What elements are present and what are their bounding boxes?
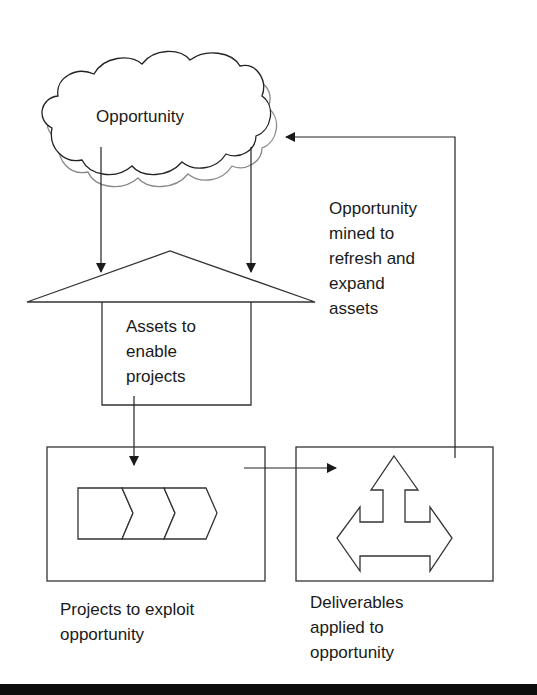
three-way-arrow-icon <box>337 456 452 571</box>
diagram-canvas <box>0 0 537 695</box>
assets-label: Assets to enable projects <box>126 314 196 389</box>
opportunity-label: Opportunity <box>96 104 184 129</box>
feedback-edge-label: Opportunity mined to refresh and expand … <box>329 196 417 321</box>
projects-label: Projects to exploit opportunity <box>60 597 194 647</box>
chevrons-icon <box>78 488 217 539</box>
deliverables-label: Deliverables applied to opportunity <box>310 590 404 665</box>
bottom-border-bar <box>0 684 537 695</box>
